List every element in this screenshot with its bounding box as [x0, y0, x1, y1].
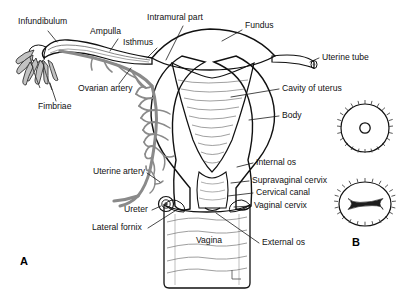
label-external-os: External os — [262, 237, 305, 247]
vagina-structure — [164, 205, 250, 288]
label-ovarian-artery: Ovarian artery — [78, 83, 133, 93]
label-fundus: Fundus — [245, 20, 274, 30]
label-lateral-fornix: Lateral fornix — [92, 222, 142, 232]
label-intramural-part: Intramural part — [147, 12, 203, 22]
label-supravaginal-cervix: Supravaginal cervix — [252, 175, 328, 185]
endometrial-rugae — [178, 80, 248, 163]
label-cervical-canal: Cervical canal — [256, 187, 310, 197]
label-vagina: Vagina — [196, 235, 222, 245]
panel-label-a: A — [20, 255, 28, 267]
vascular-arcade — [60, 51, 174, 206]
fimbriae — [16, 45, 58, 90]
label-ureter: Ureter — [124, 204, 148, 214]
label-ampulla: Ampulla — [90, 26, 121, 36]
label-vaginal-cervix: Vaginal cervix — [254, 200, 308, 210]
label-uterine-tube: Uterine tube — [322, 52, 369, 62]
inset-parous-os — [334, 178, 396, 226]
label-body: Body — [282, 110, 302, 120]
label-layer: Infundibulum Ampulla Isthmus Intramural … — [18, 12, 369, 267]
label-infundibulum: Infundibulum — [18, 16, 67, 26]
label-isthmus: Isthmus — [123, 37, 153, 47]
cervix-insets — [334, 100, 396, 226]
label-uterine-artery: Uterine artery — [93, 166, 146, 176]
label-fimbriae: Fimbriae — [38, 101, 72, 111]
label-cavity-of-uterus: Cavity of uterus — [282, 83, 342, 93]
label-internal-os: Internal os — [256, 157, 296, 167]
ureter-cross-section — [159, 197, 174, 212]
panel-label-b: B — [352, 236, 360, 248]
anatomy-figure: Infundibulum Ampulla Isthmus Intramural … — [0, 0, 417, 291]
inset-nulliparous-os — [337, 100, 393, 153]
